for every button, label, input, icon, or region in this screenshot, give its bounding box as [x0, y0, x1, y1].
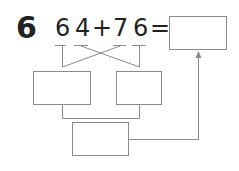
arrowhead-icon — [196, 51, 202, 58]
ones-sum-box[interactable] — [116, 71, 162, 105]
total-box[interactable] — [72, 122, 129, 156]
tens-sum-box[interactable] — [33, 71, 91, 105]
answer-box[interactable] — [169, 16, 227, 50]
